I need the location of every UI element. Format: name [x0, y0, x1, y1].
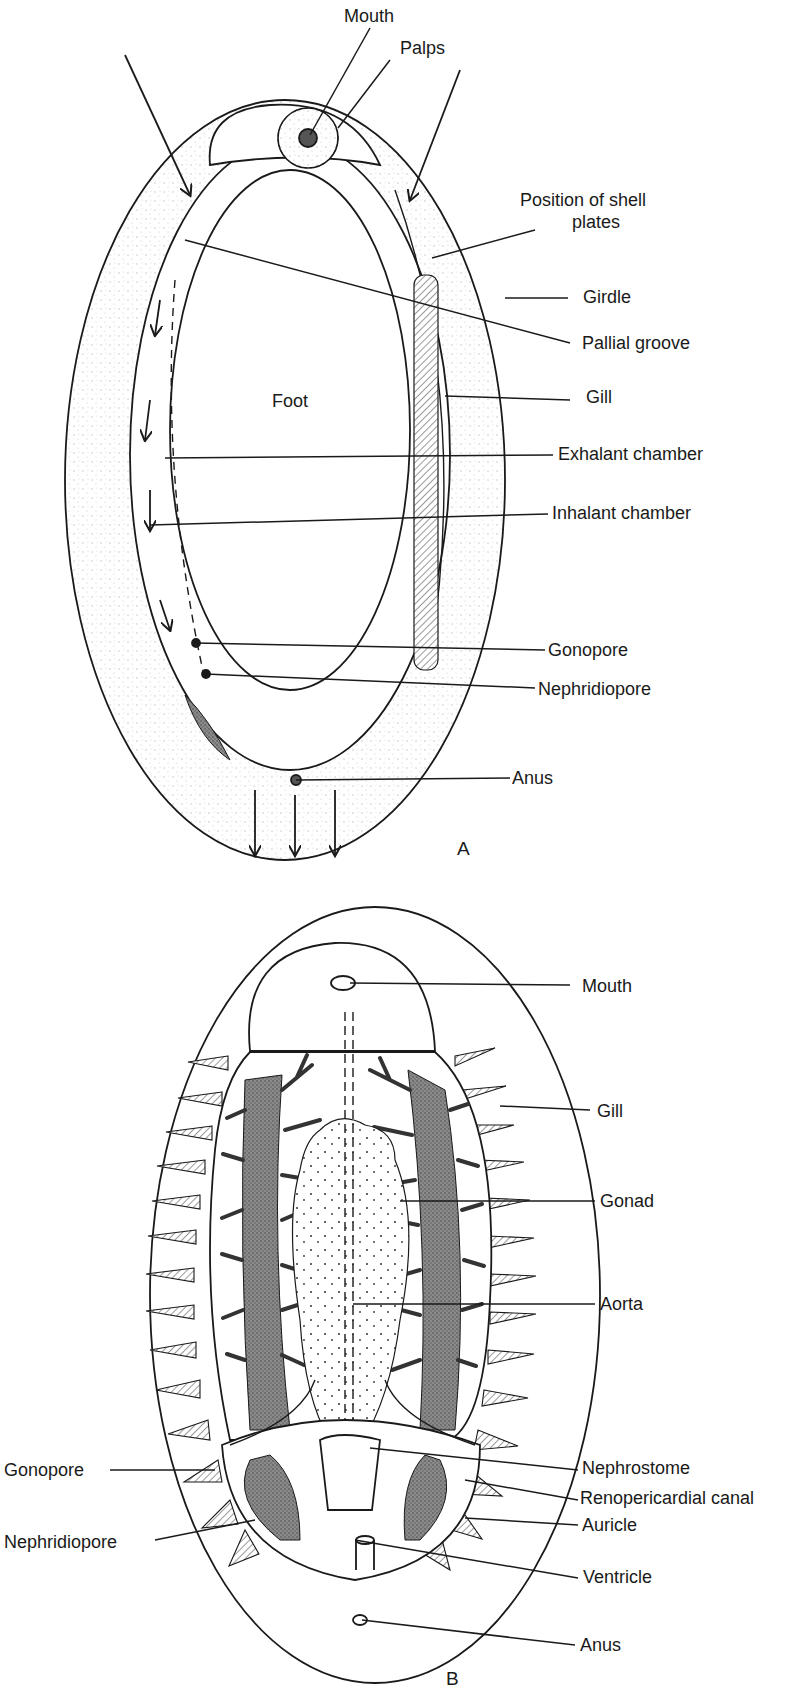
label-b-ventricle: Ventricle: [583, 1567, 652, 1587]
label-b-gonopore: Gonopore: [4, 1460, 84, 1480]
label-a-position-of-shell-line2: plates: [572, 212, 620, 232]
label-b-aorta: Aorta: [600, 1294, 643, 1314]
label-a-nephridiopore: Nephridiopore: [538, 679, 651, 699]
chiton-anatomy-figure: [0, 0, 803, 1691]
label-a-inhalant-chamber: Inhalant chamber: [552, 503, 691, 523]
label-b-gonad: Gonad: [600, 1191, 654, 1211]
panel-a-drawing: [65, 28, 570, 860]
label-b-gill: Gill: [597, 1101, 623, 1121]
label-a-palps: Palps: [400, 38, 445, 58]
label-b-anus: Anus: [580, 1635, 621, 1655]
mouth-icon: [299, 129, 317, 147]
label-b-mouth: Mouth: [582, 976, 632, 996]
label-a-mouth: Mouth: [344, 6, 394, 26]
panel-b-letter: B: [446, 1668, 459, 1690]
label-a-pallial-groove: Pallial groove: [582, 333, 690, 353]
panel-a-letter: A: [457, 838, 470, 860]
label-b-nephrostome: Nephrostome: [582, 1458, 690, 1478]
panel-b-drawing: [110, 907, 600, 1683]
label-a-position-of-shell-line1: Position of shell: [520, 190, 646, 210]
label-a-exhalant-chamber: Exhalant chamber: [558, 444, 703, 464]
label-b-auricle: Auricle: [582, 1515, 637, 1535]
label-b-nephridiopore: Nephridiopore: [4, 1532, 117, 1552]
label-a-gonopore: Gonopore: [548, 640, 628, 660]
label-b-renopericardial-canal: Renopericardial canal: [580, 1488, 754, 1508]
label-a-girdle: Girdle: [583, 287, 631, 307]
label-a-foot: Foot: [272, 391, 308, 411]
label-a-gill: Gill: [586, 387, 612, 407]
label-a-anus: Anus: [512, 768, 553, 788]
gill-row-a: [414, 275, 438, 670]
